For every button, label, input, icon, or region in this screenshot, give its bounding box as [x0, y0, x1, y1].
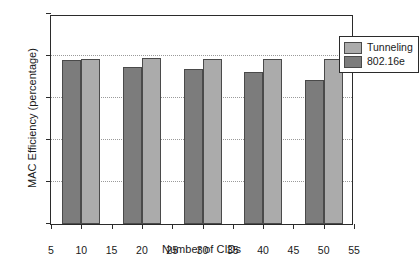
bar [305, 80, 324, 224]
legend-label-80216e: 802.16e [367, 56, 405, 67]
bar [203, 59, 222, 224]
y-axis-label: MAC Efficiency (percentage) [26, 23, 38, 213]
x-axis-label: Number of CIDs [50, 243, 353, 255]
x-tick-mark [324, 224, 325, 229]
x-tick-mark [354, 224, 355, 229]
bar [263, 59, 282, 224]
legend-swatch-80216e [344, 56, 362, 68]
x-tick-mark [51, 224, 52, 229]
x-tick-mark [172, 224, 173, 229]
bar [142, 58, 161, 224]
x-tick-mark [142, 224, 143, 229]
bar [81, 59, 100, 224]
bar [324, 59, 343, 224]
plot-area: 5060708090100 510152025303540455055 Tunn… [50, 15, 353, 225]
bar [62, 60, 81, 224]
x-tick-mark [203, 224, 204, 229]
bar [123, 67, 142, 225]
bar [244, 72, 263, 224]
legend-swatch-tunneling [344, 42, 362, 54]
x-tick-mark [293, 224, 294, 229]
legend-item: 802.16e [344, 55, 413, 68]
bar [184, 69, 203, 224]
x-tick-mark [81, 224, 82, 229]
x-tick-mark [263, 224, 264, 229]
x-tick-mark [233, 224, 234, 229]
legend-label-tunneling: Tunneling [367, 42, 413, 53]
y-tick-mark [46, 13, 51, 14]
legend-item: Tunneling [344, 41, 413, 54]
bar-group [51, 16, 352, 224]
legend: Tunneling 802.16e [339, 36, 419, 73]
figure-caption-strip [0, 264, 387, 275]
x-tick-mark [112, 224, 113, 229]
